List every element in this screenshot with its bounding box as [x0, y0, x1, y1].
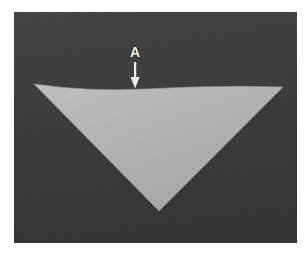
- micrograph-panel: A: [14, 12, 297, 243]
- figure-root: A: [0, 0, 306, 257]
- arrow-shaft: [134, 62, 136, 79]
- annotation-label-a: A: [122, 45, 148, 59]
- micrograph-canvas: [14, 12, 297, 243]
